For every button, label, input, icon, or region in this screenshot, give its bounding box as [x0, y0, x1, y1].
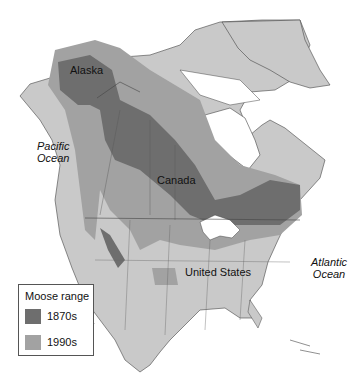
label-pacific-ocean: Pacific Ocean	[37, 140, 69, 164]
legend-title: Moose range	[25, 290, 89, 302]
label-atlantic-ocean: Atlantic Ocean	[311, 256, 347, 280]
legend-swatch-1870s	[25, 309, 41, 324]
legend-label-1870s: 1870s	[47, 310, 77, 322]
legend: Moose range 1870s 1990s	[18, 284, 94, 356]
label-canada: Canada	[157, 174, 196, 186]
legend-swatch-1990s	[25, 335, 41, 350]
label-alaska: Alaska	[70, 64, 103, 76]
range-1990s-colorado	[152, 268, 178, 285]
label-united-states: United States	[185, 266, 251, 278]
legend-label-1990s: 1990s	[47, 336, 77, 348]
